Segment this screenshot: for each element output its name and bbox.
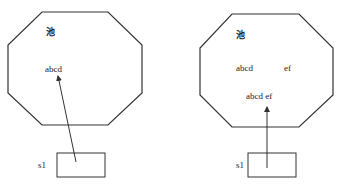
string-ef-right: ef [284,63,291,73]
pool-octagon-left [8,12,142,125]
pool-label-right: 池 [236,30,245,40]
variable-label-right: s1 [236,160,244,170]
string-abcdef-right: abcd ef [246,91,272,101]
variable-box-left [57,153,105,177]
variable-label-left: s1 [38,160,46,170]
variable-box-right [248,153,296,177]
pool-label-left: 池 [46,27,55,37]
string-abcd-right: abcd [236,63,253,73]
reference-arrow-left [58,76,76,162]
string-abcd-left: abcd [45,64,62,74]
